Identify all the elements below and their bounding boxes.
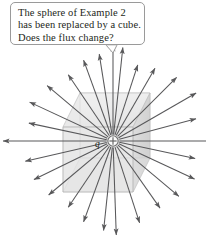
gauss-law-cube-figure: The sphere of Example 2 has been replace… — [0, 0, 206, 236]
charge-label: q — [95, 139, 100, 149]
callout-line-2: has been replaced by a cube. — [18, 19, 139, 31]
callout-line-3: Does the flux change? — [18, 32, 139, 44]
callout-tail — [106, 45, 117, 53]
callout-box: The sphere of Example 2 has been replace… — [10, 2, 145, 45]
point-charge-marker — [108, 136, 118, 146]
callout-line-1: The sphere of Example 2 — [18, 7, 139, 19]
